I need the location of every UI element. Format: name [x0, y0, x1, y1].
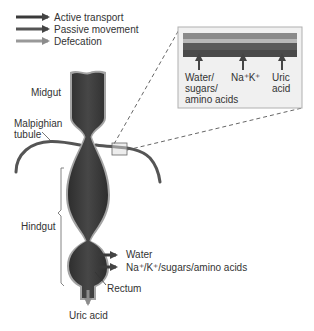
hindgut-label: Hindgut: [21, 221, 55, 232]
inset-label-ions: Na⁺K⁺: [231, 72, 260, 83]
inset-label-line: sugars/: [185, 83, 238, 94]
zoom-box: [112, 143, 127, 155]
rectum-label: Rectum: [107, 283, 141, 294]
uric-acid-label: Uric acid: [69, 310, 108, 321]
legend-label: Defecation: [54, 36, 102, 47]
inset-label-uric: Uric acid: [272, 72, 290, 94]
legend-label: Passive movement: [54, 24, 138, 35]
malpighian-label-line2: tubule: [14, 129, 41, 140]
malpighian-tubule-left: [16, 141, 80, 172]
inset-label-line: Uric: [272, 72, 290, 83]
gut-diagram: [0, 0, 314, 331]
inset-label-line: Na⁺K⁺: [231, 72, 260, 83]
legend-arrows: [16, 17, 48, 41]
inset-label-line: amino acids: [185, 94, 238, 105]
legend-item-defecation: Defecation: [54, 36, 102, 47]
hindgut-bracket: [58, 168, 64, 286]
ions-sugars-label: Na⁺/K⁺/sugars/amino acids: [126, 262, 247, 273]
inset-label-line: acid: [272, 83, 290, 94]
malpighian-pointer: [42, 132, 50, 140]
midgut-label: Midgut: [31, 87, 61, 98]
malpighian-label-line1: Malpighian: [14, 118, 62, 129]
legend-item-active-transport: Active transport: [54, 12, 123, 23]
gut-body: [68, 73, 108, 298]
legend-label: Active transport: [54, 12, 123, 23]
zoom-line-bottom: [127, 108, 302, 150]
legend-item-passive-movement: Passive movement: [54, 24, 138, 35]
water-label: Water: [126, 249, 152, 260]
zoom-line-top: [114, 28, 180, 144]
